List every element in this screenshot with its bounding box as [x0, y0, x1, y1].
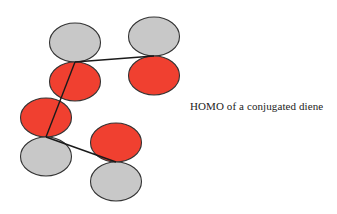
orbital-lobe-c1-top-negative — [50, 23, 101, 62]
diagram-caption: HOMO of a conjugated diene — [190, 100, 323, 112]
orbital-lobe-c1-bottom-positive — [50, 62, 101, 101]
orbital-lobe-c4-bottom-negative — [91, 162, 142, 201]
orbital-lobe-c2-bottom-positive — [129, 56, 180, 95]
orbital-lobes — [21, 17, 180, 201]
orbital-lobe-c3-top-positive — [21, 98, 72, 137]
orbital-lobe-c2-top-negative — [129, 17, 180, 56]
